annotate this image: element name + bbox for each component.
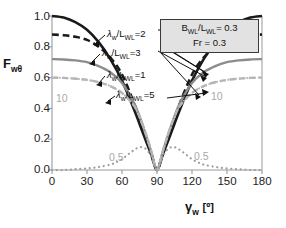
inline-label-05-right: 0.5 [194,151,209,162]
x-tick-label: 90 [140,176,174,188]
x-tick-label: 180 [245,176,279,188]
series-curve [52,147,262,170]
x-tick-label: 150 [210,176,244,188]
y-tick-label: 0.4 [16,103,50,115]
y-axis-title-sub: wθ [11,64,22,74]
y-axis-title: Fwθ [3,56,22,74]
series-label-lambda5: λw/LWL=5 [116,90,155,104]
inline-label-10-left: 10 [56,93,68,104]
y-tick-label: 1.0 [16,11,50,23]
x-tick-label: 30 [70,176,104,188]
y-tick-label: 0.6 [16,72,50,84]
series-label-lambda1: λw/LWL=1 [107,70,146,84]
y-axis-title-main: F [3,56,11,71]
y-tick-label: 0.8 [16,41,50,53]
series-curve [52,78,262,170]
y-tick-label: 0.2 [16,133,50,145]
legend-line-bwl: BWL/LWL= 0.3 [164,22,255,37]
series-label-lambda2: λw/LWL=2 [107,29,146,43]
series-curve [52,59,262,170]
x-axis-title: γw [º] [185,199,214,217]
chart-figure: 1.0 0.8 0.6 0.4 0.2 0.0 0 30 60 90 120 1… [0,0,286,228]
series-label-lambda3: λw/LWL=3 [102,48,141,62]
inline-label-10-right: 10 [211,91,223,102]
y-tick-label: 0.0 [16,164,50,176]
series-curve [52,78,262,170]
series-curve [52,34,262,170]
x-axis-title-sub: w [192,207,199,217]
x-tick-label: 0 [35,176,69,188]
x-tick-label: 120 [175,176,209,188]
x-tick-label: 60 [105,176,139,188]
inline-label-05-left: 0.5 [109,152,124,163]
legend-box: BWL/LWL= 0.3 Fr = 0.3 [160,19,259,53]
legend-line-fr: Fr = 0.3 [164,37,255,49]
x-axis-title-unit: [º] [202,201,213,213]
